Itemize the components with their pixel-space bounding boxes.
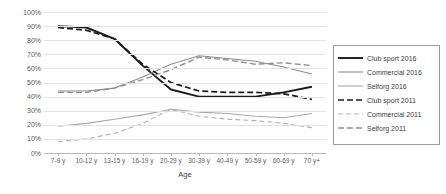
legend-item[interactable]: Selforg 2016 xyxy=(338,79,435,93)
legend-item-label: Club sport 2016 xyxy=(367,54,416,63)
plot-area xyxy=(44,12,326,153)
legend-item[interactable]: Club sport 2011 xyxy=(338,93,435,107)
y-axis-tick-label: 20% xyxy=(1,121,41,128)
x-axis: 7-9 y10-12 y13-15 y16-19 y20-29 y30-39 y… xyxy=(44,156,326,170)
x-axis-tick-label: 70 y+ xyxy=(304,156,320,165)
x-axis-tick-label: 16-19 y xyxy=(132,156,154,165)
gridline xyxy=(44,111,326,112)
y-axis: 100%90%80%70%60%50%40%30%20%10%0% xyxy=(0,0,41,194)
x-axis-tick-label: 30-39 y xyxy=(188,156,210,165)
legend-swatch-icon xyxy=(338,81,363,91)
legend-item[interactable]: Commercial 2016 xyxy=(338,65,435,79)
y-axis-tick-label: 30% xyxy=(1,107,41,114)
series-line xyxy=(58,56,312,91)
y-axis-tick-label: 70% xyxy=(1,51,41,58)
y-axis-tick-label: 40% xyxy=(1,93,41,100)
legend-swatch-icon xyxy=(338,67,363,77)
legend-swatch-icon xyxy=(338,109,363,119)
series-line xyxy=(58,26,312,97)
x-axis-title: Age xyxy=(44,170,326,179)
x-axis-tick-label: 40-49 y xyxy=(216,156,238,165)
y-axis-tick-label: 90% xyxy=(1,23,41,30)
gridline xyxy=(44,12,326,13)
series-line xyxy=(58,109,312,126)
gridline xyxy=(44,139,326,140)
gridline xyxy=(44,40,326,41)
x-axis-tick-label: 10-12 y xyxy=(75,156,97,165)
y-axis-tick-label: 50% xyxy=(1,79,41,86)
y-axis-tick-label: 10% xyxy=(1,135,41,142)
gridline xyxy=(44,26,326,27)
x-axis-tick-label: 50-59 y xyxy=(245,156,267,165)
legend-item-label: Club sport 2011 xyxy=(367,96,416,105)
gridline xyxy=(44,83,326,84)
gridline xyxy=(44,68,326,69)
x-axis-tick-label: 13-15 y xyxy=(104,156,126,165)
legend-swatch-icon xyxy=(338,123,363,133)
legend-item[interactable]: Commercial 2011 xyxy=(338,107,435,121)
x-axis-tick-label: 20-29 y xyxy=(160,156,182,165)
legend-item[interactable]: Club sport 2016 xyxy=(338,51,435,65)
x-axis-tick-label: 60-69 y xyxy=(273,156,295,165)
gridline xyxy=(44,125,326,126)
legend-item-label: Selforg 2011 xyxy=(367,124,406,133)
legend-item-label: Commercial 2016 xyxy=(367,68,422,77)
gridline xyxy=(44,54,326,55)
line-chart: 100%90%80%70%60%50%40%30%20%10%0% 7-9 y1… xyxy=(0,0,446,194)
legend-item-label: Commercial 2011 xyxy=(367,110,421,119)
y-axis-tick-label: 100% xyxy=(1,9,41,16)
gridline xyxy=(44,97,326,98)
legend-swatch-icon xyxy=(338,53,363,63)
legend-item-label: Selforg 2016 xyxy=(367,82,407,91)
legend-swatch-icon xyxy=(338,95,363,105)
chart-legend: Club sport 2016Commercial 2016Selforg 20… xyxy=(333,45,440,145)
y-axis-tick-label: 60% xyxy=(1,65,41,72)
y-axis-tick-label: 80% xyxy=(1,37,41,44)
x-axis-tick-label: 7-9 y xyxy=(51,156,65,165)
legend-item[interactable]: Selforg 2011 xyxy=(338,121,435,135)
y-axis-tick-label: 0% xyxy=(1,150,41,157)
